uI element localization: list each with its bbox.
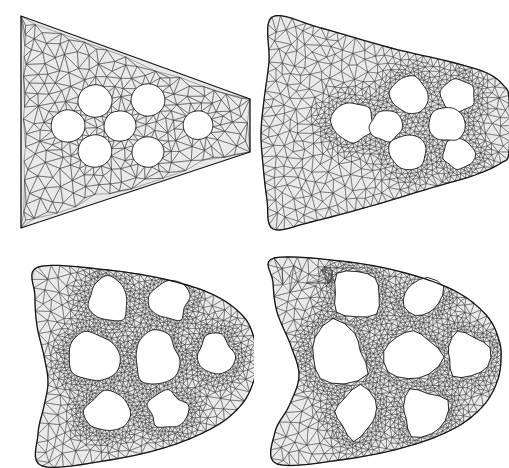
mesh-panel-intermediate [0, 234, 254, 468]
mesh-panel-converged-truss [255, 234, 509, 468]
mesh-hole [104, 111, 136, 141]
mesh-group [261, 16, 509, 230]
figure-canvas [0, 0, 509, 468]
mesh-group [21, 16, 250, 228]
mesh-group [268, 257, 501, 466]
mesh-svg-4 [255, 234, 509, 468]
mesh-panel-initial [0, 0, 254, 234]
mesh-group [32, 265, 254, 467]
mesh-svg-1 [0, 0, 254, 234]
mesh-hole [335, 271, 380, 317]
mesh-panel-early-shape-change [255, 0, 509, 234]
mesh-svg-3 [0, 234, 254, 468]
mesh-hole [183, 111, 213, 140]
mesh-hole [78, 85, 112, 118]
mesh-hole [78, 135, 112, 167]
mesh-hole [132, 137, 164, 167]
mesh-hole [429, 108, 465, 141]
mesh-hole [51, 110, 85, 142]
mesh-hole [131, 84, 165, 116]
mesh-svg-2 [255, 0, 509, 234]
